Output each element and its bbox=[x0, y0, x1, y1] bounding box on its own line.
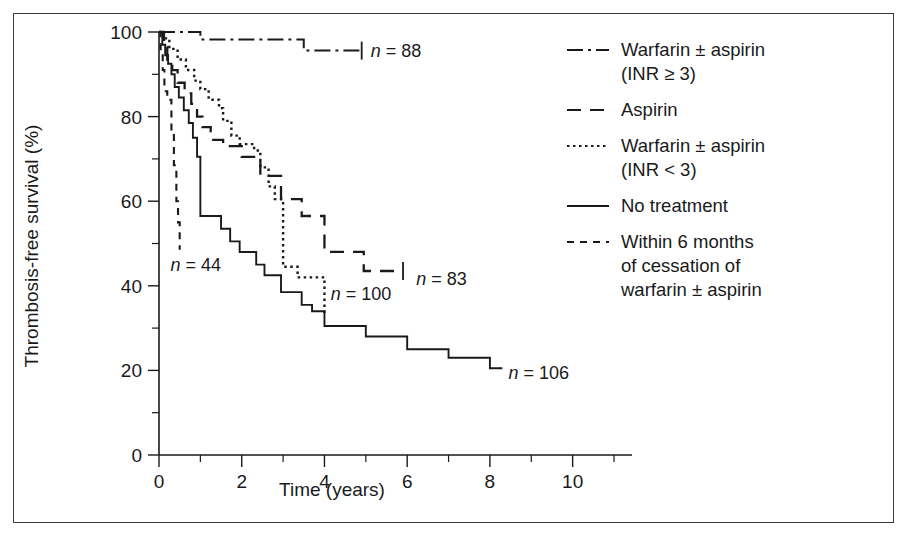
y-axis-title: Thrombosis-free survival (%) bbox=[21, 125, 42, 368]
x-axis: 0246810 bbox=[154, 455, 632, 492]
survival-curves bbox=[159, 32, 502, 368]
x-tick-label: 2 bbox=[236, 471, 247, 492]
y-tick-label: 40 bbox=[121, 276, 142, 297]
x-tick-label: 10 bbox=[562, 471, 583, 492]
legend-warfarin-high-inr-label: (INR ≥ 3) bbox=[621, 63, 696, 84]
y-axis: 020406080100 bbox=[110, 22, 159, 466]
n-label-warfarin_high_inr: n = 88 bbox=[371, 41, 422, 61]
x-axis-title: Time (years) bbox=[279, 479, 385, 500]
legend-within-6-months-label: Within 6 months bbox=[621, 231, 754, 252]
curve-warfarin_high_inr bbox=[159, 32, 362, 51]
legend-within-6-months-label: warfarin ± aspirin bbox=[620, 279, 762, 300]
legend-within-6-months-label: of cessation of bbox=[621, 255, 741, 276]
y-tick-label: 60 bbox=[121, 191, 142, 212]
y-tick-label: 0 bbox=[131, 445, 142, 466]
x-tick-label: 0 bbox=[154, 471, 165, 492]
y-tick-label: 20 bbox=[121, 360, 142, 381]
y-tick-label: 100 bbox=[110, 22, 142, 43]
n-label-no_treatment: n = 106 bbox=[509, 363, 570, 383]
n-label-within_6_months: n = 44 bbox=[171, 255, 222, 275]
legend-warfarin-low-inr-label: (INR < 3) bbox=[621, 159, 697, 180]
figure-root: 020406080100 0246810 n = 88n = 83n = 100… bbox=[0, 0, 909, 539]
legend-warfarin-high-inr-label: Warfarin ± aspirin bbox=[621, 39, 765, 60]
legend-aspirin-label: Aspirin bbox=[621, 99, 678, 120]
curve-aspirin bbox=[159, 32, 403, 271]
n-label-warfarin_low_inr: n = 100 bbox=[331, 284, 392, 304]
legend-no-treatment-label: No treatment bbox=[621, 195, 728, 216]
figure-border: 020406080100 0246810 n = 88n = 83n = 100… bbox=[13, 13, 894, 523]
curve-within_6_months bbox=[159, 32, 180, 250]
n-annotations: n = 88n = 83n = 100n = 106n = 44 bbox=[171, 41, 570, 382]
legend: Warfarin ± aspirin(INR ≥ 3)AspirinWarfar… bbox=[567, 39, 765, 300]
x-tick-label: 6 bbox=[402, 471, 413, 492]
legend-warfarin-low-inr-label: Warfarin ± aspirin bbox=[621, 135, 765, 156]
n-label-aspirin: n = 83 bbox=[416, 269, 467, 289]
kaplan-meier-chart: 020406080100 0246810 n = 88n = 83n = 100… bbox=[14, 14, 893, 522]
curve-no_treatment bbox=[159, 32, 502, 368]
y-tick-label: 80 bbox=[121, 107, 142, 128]
x-tick-label: 8 bbox=[485, 471, 496, 492]
